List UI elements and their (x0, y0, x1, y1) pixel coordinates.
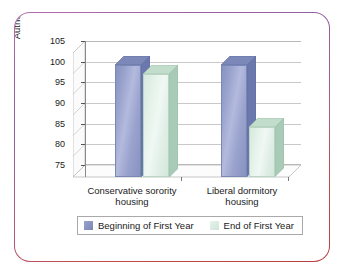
ytick-label-100: 100 (50, 58, 65, 67)
ytick-label-80: 80 (55, 140, 65, 149)
legend-label: End of First Year (224, 220, 294, 231)
bar-front-face (143, 74, 169, 177)
category-label-conservative: Conservative sorority housing (77, 185, 187, 207)
bar-end-liberal[interactable] (249, 127, 275, 177)
ytick-label-95: 95 (55, 78, 65, 87)
category-label-line: housing (77, 196, 187, 207)
bar-beginning-conservative[interactable] (115, 65, 141, 177)
category-label-liberal: Liberal dormitory housing (187, 185, 297, 207)
legend-label: Beginning of First Year (98, 220, 194, 231)
ytick-label-75: 75 (55, 161, 65, 170)
category-label-line: housing (187, 196, 297, 207)
bar-front-face (115, 65, 141, 177)
figure-frame: Authoritarianism (14, 12, 330, 262)
ytick-label-105: 105 (50, 37, 65, 46)
bar-front-face (249, 127, 275, 177)
legend-item-end[interactable]: End of First Year (210, 220, 294, 231)
bar-side-face-shape (169, 65, 178, 177)
category-label-line: Liberal dormitory (187, 185, 297, 196)
ytick-label-85: 85 (55, 120, 65, 129)
ytick-label-90: 90 (55, 99, 65, 108)
bar-front-face (221, 65, 247, 177)
bar-beginning-liberal[interactable] (221, 65, 247, 177)
bar-end-conservative[interactable] (143, 74, 169, 177)
figure-inner: Authoritarianism (15, 13, 329, 261)
legend-swatch-icon (84, 221, 93, 230)
y-axis-title: Authoritarianism (15, 13, 22, 65)
chart-legend: Beginning of First Year End of First Yea… (77, 216, 303, 235)
category-label-line: Conservative sorority (77, 185, 187, 196)
legend-item-beginning[interactable]: Beginning of First Year (84, 220, 194, 231)
x-axis-end-tick (288, 177, 289, 181)
x-axis-category-tick (181, 177, 182, 181)
y-axis-spine (85, 41, 86, 177)
plot-area (73, 41, 301, 177)
legend-swatch-icon (210, 221, 219, 230)
